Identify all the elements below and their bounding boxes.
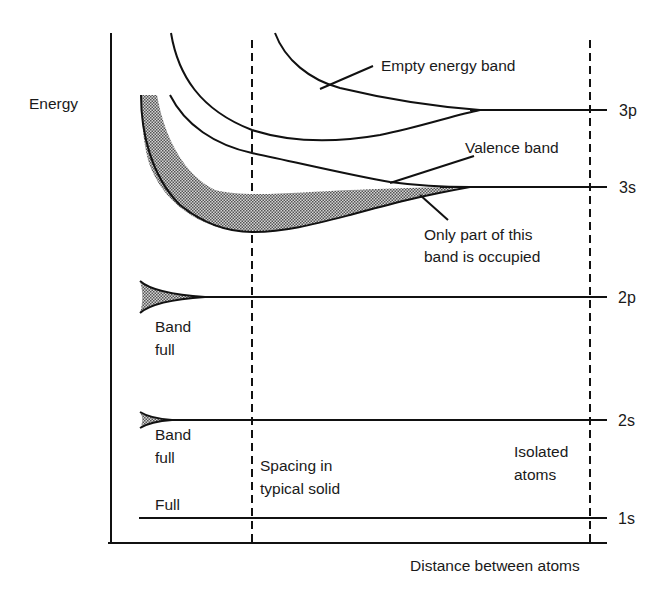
band-full-2p-label-2: full [155, 341, 175, 358]
valence-band-label: Valence band [465, 139, 559, 156]
energy-band-diagram: Energy Distance between atoms 3p 3s 2p 2… [0, 0, 671, 601]
level-label-2p: 2p [618, 289, 636, 306]
level-label-1s: 1s [618, 510, 635, 527]
level-label-3s: 3s [619, 179, 636, 196]
band-full-2s-label-2: full [155, 449, 175, 466]
x-axis-label: Distance between atoms [410, 557, 580, 574]
isolated-label-1: Isolated [514, 443, 568, 460]
empty-band-pointer [320, 66, 373, 89]
valence-band-pointer [390, 156, 474, 183]
level-label-2s: 2s [618, 412, 635, 429]
partial-occupancy-label-2: band is occupied [424, 248, 540, 265]
y-axis-label: Energy [29, 95, 78, 112]
partial-occupancy-label-1: Only part of this [424, 226, 533, 243]
empty-band-label: Empty energy band [381, 57, 515, 74]
band-full-2p-label-1: Band [155, 318, 191, 335]
partial-occupancy-pointer [420, 195, 448, 220]
level-label-3p: 3p [619, 102, 637, 119]
band-full-2s-label-1: Band [155, 426, 191, 443]
full-1s-label: Full [155, 496, 180, 513]
isolated-label-2: atoms [514, 466, 556, 483]
spacing-label-2: typical solid [260, 480, 340, 497]
spacing-label-1: Spacing in [260, 457, 332, 474]
